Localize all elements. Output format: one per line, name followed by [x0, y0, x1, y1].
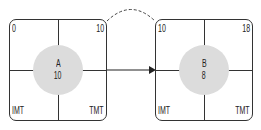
node-a-early-start: 0 [12, 24, 16, 34]
node-b-early-finish: 18 [242, 24, 250, 34]
node-b: 10 18 IMT TMT B 8 [155, 19, 253, 121]
dashed-link [107, 10, 155, 22]
node-a-bottom-right: TMT [90, 106, 104, 116]
node-b-circle: B 8 [179, 45, 229, 95]
node-b-bottom-left: IMT [158, 106, 170, 116]
node-a: 0 10 IMT TMT A 10 [9, 19, 107, 121]
node-b-label: B [202, 58, 207, 70]
node-a-bottom-left: IMT [12, 106, 24, 116]
node-a-label: A [56, 58, 61, 70]
node-a-duration: 10 [54, 70, 62, 82]
node-b-duration: 8 [202, 70, 206, 82]
node-a-circle: A 10 [33, 45, 83, 95]
node-b-early-start: 10 [158, 24, 166, 34]
node-b-bottom-right: TMT [236, 106, 250, 116]
node-a-early-finish: 10 [96, 24, 104, 34]
